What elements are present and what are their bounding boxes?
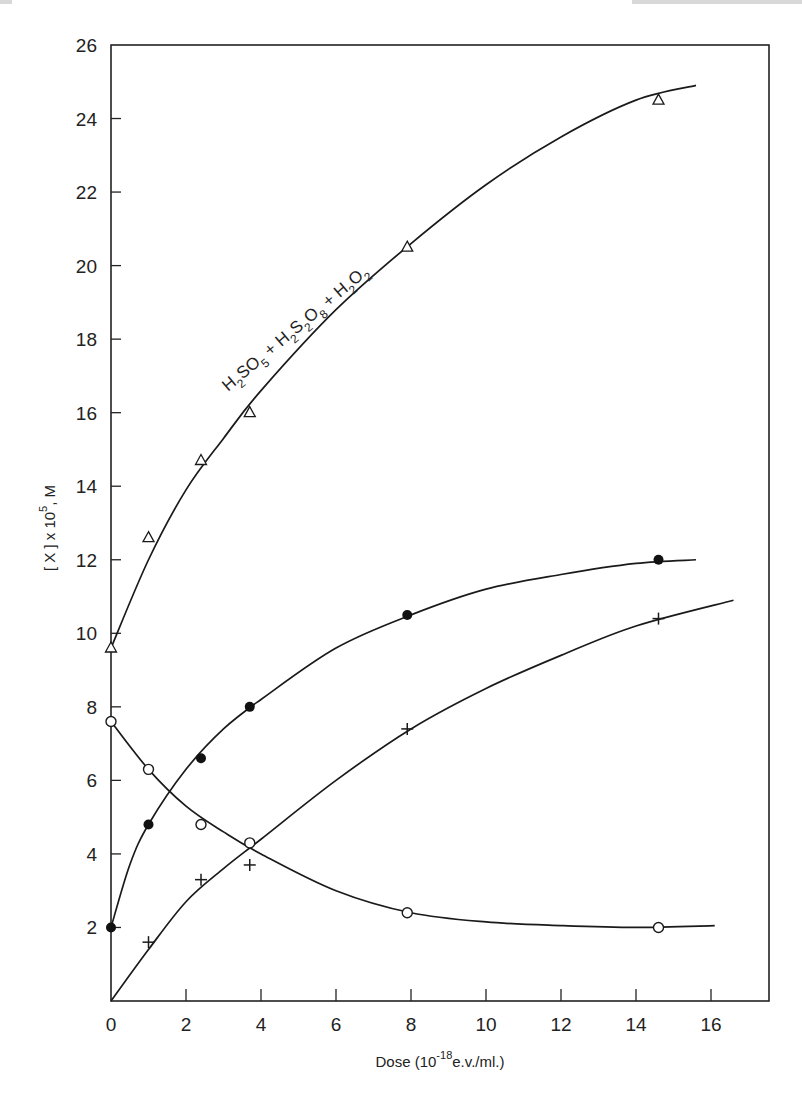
x-tick-label: 4 — [256, 1014, 267, 1035]
y-axis: 2468101214161820222426 — [76, 35, 121, 938]
series-annotation-peroxides: H2SO5 + H2S2O8 + H2O2 — [218, 262, 375, 399]
y-tick-label: 6 — [86, 770, 97, 791]
y-tick-label: 26 — [76, 35, 97, 56]
filled-circle-marker — [144, 820, 154, 830]
x-axis-title: Dose (10-18e.v./ml.) — [375, 1049, 504, 1070]
open-circle-marker — [196, 820, 206, 830]
plus-marker — [244, 859, 256, 871]
filled-circle-marker — [402, 610, 412, 620]
y-tick-label: 18 — [76, 329, 97, 350]
open-circle-marker — [245, 838, 255, 848]
plus-marker — [143, 936, 155, 948]
y-tick-label: 20 — [76, 256, 97, 277]
x-tick-label: 10 — [475, 1014, 496, 1035]
triangle-marker — [143, 532, 154, 542]
open-circle-marker — [144, 764, 154, 774]
open-circle-marker — [402, 908, 412, 918]
open-circle-marker — [106, 717, 116, 727]
filled-circle-marker — [196, 753, 206, 763]
filled-circle-marker — [245, 702, 255, 712]
x-tick-label: 6 — [331, 1014, 342, 1035]
x-tick-label: 2 — [181, 1014, 192, 1035]
x-tick-label: 14 — [625, 1014, 647, 1035]
fit-curve — [111, 85, 696, 648]
triangle-marker — [106, 642, 117, 652]
x-tick-label: 0 — [106, 1014, 117, 1035]
x-tick-label: 8 — [406, 1014, 417, 1035]
y-tick-label: 2 — [86, 917, 97, 938]
fitted-curves — [111, 85, 734, 1001]
plot-frame — [111, 45, 769, 1001]
filled-circle-marker — [654, 555, 664, 565]
triangle-marker — [653, 94, 664, 104]
y-tick-label: 14 — [76, 476, 98, 497]
data-markers — [106, 94, 665, 948]
open-circle-marker — [654, 922, 664, 932]
y-tick-label: 16 — [76, 403, 97, 424]
x-tick-label: 12 — [550, 1014, 571, 1035]
y-tick-label: 12 — [76, 550, 97, 571]
y-tick-label: 24 — [76, 109, 98, 130]
plus-marker — [653, 613, 665, 625]
y-tick-label: 8 — [86, 697, 97, 718]
chart: 0246810121416 2468101214161820222426 Dos… — [0, 0, 802, 1100]
y-tick-label: 22 — [76, 182, 97, 203]
triangle-marker — [196, 454, 207, 464]
x-tick-label: 16 — [700, 1014, 721, 1035]
y-tick-label: 4 — [86, 844, 97, 865]
y-axis-title: [ X ] x 105, M — [37, 485, 58, 571]
y-tick-label: 10 — [76, 623, 97, 644]
filled-circle-marker — [106, 922, 116, 932]
fit-curve — [111, 600, 734, 1001]
x-axis: 0246810121416 — [106, 989, 722, 1035]
